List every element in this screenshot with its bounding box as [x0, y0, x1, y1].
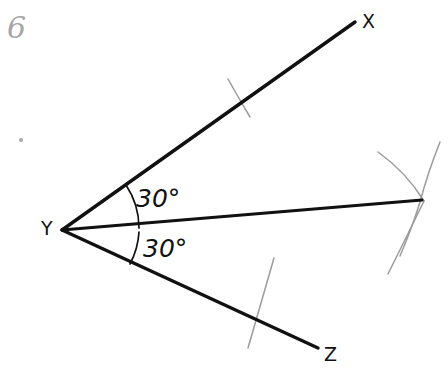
- construction-arc-crossing-ray-yz: [248, 258, 274, 348]
- geometry-figure-canvas: 6 X Y Z 30° 30°: [0, 0, 448, 374]
- ray-yz: [62, 230, 318, 348]
- stray-dot-artifact: [19, 138, 23, 142]
- figure-svg: [0, 0, 448, 374]
- construction-arc-right-vertical-upper: [420, 142, 440, 202]
- construction-arc-right-to-lower: [388, 201, 424, 274]
- point-label-z: Z: [324, 345, 337, 364]
- angle-label-upper: 30°: [136, 186, 180, 211]
- point-label-x: X: [362, 12, 375, 31]
- construction-arc-right-from-upper-ray: [378, 152, 424, 201]
- rays-group: [62, 22, 422, 348]
- ray-yx: [62, 22, 355, 230]
- ray-y-bisector: [62, 200, 422, 230]
- angle-label-lower: 30°: [143, 236, 187, 261]
- angle-arc-lower: [130, 232, 139, 264]
- point-label-y: Y: [41, 219, 53, 238]
- problem-number: 6: [7, 13, 26, 43]
